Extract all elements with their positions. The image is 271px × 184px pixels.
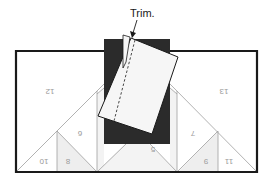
- piece-label-9: 9: [203, 157, 208, 166]
- callout-arrowhead-icon: [130, 31, 136, 38]
- callout-arrow-line: [133, 20, 137, 33]
- piece-7-strip-shade: [170, 88, 177, 172]
- piece-label-10: 10: [39, 157, 48, 166]
- piece-6-strip-shade: [97, 88, 104, 172]
- piece-label-13: 13: [219, 87, 228, 96]
- paper-piecing-diagram: Trim. 12 13 6 7 5 10 8 9 11: [0, 0, 271, 184]
- callout-trim-label: Trim.: [130, 7, 155, 19]
- piece-label-5: 5: [150, 145, 155, 154]
- piece-label-11: 11: [224, 157, 233, 166]
- piece-label-12: 12: [45, 87, 54, 96]
- piece-label-6: 6: [77, 129, 82, 138]
- piece-label-8: 8: [65, 157, 70, 166]
- piece-label-7: 7: [190, 129, 195, 138]
